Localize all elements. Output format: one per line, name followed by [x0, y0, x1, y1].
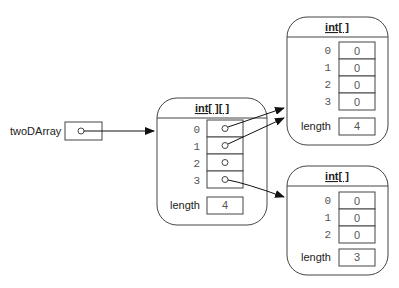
- length-label: length: [301, 251, 331, 263]
- array-diagram: twoDArray int[ ][ ] 0 1 2 3 length 4 int…: [0, 0, 399, 288]
- outer-array-object: int[ ][ ] 0 1 2 3 length 4: [157, 98, 267, 225]
- reference-dot-icon: [222, 126, 228, 132]
- cell-value: 0: [354, 45, 360, 57]
- index-label: 2: [324, 229, 331, 241]
- cell-value: 0: [354, 79, 360, 91]
- index-label: 3: [324, 96, 331, 108]
- index-label: 2: [193, 158, 200, 170]
- reference-dot-icon: [222, 160, 228, 166]
- index-label: 1: [324, 62, 331, 74]
- reference-dot-icon: [78, 128, 84, 134]
- outer-array-type: int[ ][ ]: [195, 102, 230, 114]
- length-value: 4: [222, 199, 228, 211]
- reference-dot-icon: [222, 177, 228, 183]
- cell-value: 0: [354, 62, 360, 74]
- length-label: length: [301, 120, 331, 132]
- length-label: length: [170, 199, 200, 211]
- cell-value: 0: [354, 212, 360, 224]
- index-label: 0: [324, 195, 331, 207]
- index-label: 0: [193, 124, 200, 136]
- index-label: 3: [193, 175, 200, 187]
- index-label: 2: [324, 79, 331, 91]
- inner-array-b-type: int[ ]: [325, 170, 349, 182]
- inner-array-a-type: int[ ]: [325, 21, 349, 33]
- cell-value: 0: [354, 96, 360, 108]
- index-label: 0: [324, 45, 331, 57]
- variable-twoDArray: twoDArray: [10, 122, 154, 140]
- inner-array-a-object: int[ ] 0 1 2 3 0 0 0 0 length 4: [287, 17, 388, 145]
- length-value: 4: [354, 120, 360, 132]
- cell-value: 0: [354, 195, 360, 207]
- index-label: 1: [324, 212, 331, 224]
- variable-name: twoDArray: [10, 125, 62, 137]
- index-label: 1: [193, 141, 200, 153]
- inner-array-b-object: int[ ] 0 1 2 0 0 0 length 3: [287, 166, 388, 275]
- reference-dot-icon: [222, 143, 228, 149]
- cell-value: 0: [354, 229, 360, 241]
- length-value: 3: [354, 251, 360, 263]
